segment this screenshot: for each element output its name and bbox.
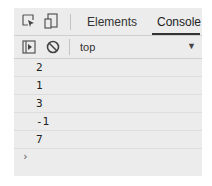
prompt-chevron-icon: › [22,150,29,163]
tabbar-separator [70,14,71,30]
tab-bar: Elements Console [14,8,202,36]
console-output: 2 1 3 -1 7 › [14,59,202,166]
device-toolbar-icon[interactable] [44,13,58,33]
console-message: 7 [14,131,202,149]
active-tab-indicator [152,33,200,35]
dropdown-arrow-icon[interactable]: ▼ [187,41,196,51]
console-message: 2 [14,59,202,77]
context-selector[interactable]: top [80,41,95,53]
toolbar-separator [69,39,70,55]
tab-console[interactable]: Console [157,15,201,29]
clear-console-icon[interactable] [46,40,60,58]
inspect-element-icon[interactable] [22,14,36,32]
devtools-panel: Elements Console top ▼ 2 1 3 -1 7 › [14,8,202,176]
sidebar-toggle-icon[interactable] [22,40,36,58]
tab-elements[interactable]: Elements [87,15,137,29]
console-message: 1 [14,77,202,95]
console-prompt[interactable]: › [14,149,202,166]
console-message: -1 [14,113,202,131]
console-message: 3 [14,95,202,113]
console-toolbar: top ▼ [14,36,202,59]
